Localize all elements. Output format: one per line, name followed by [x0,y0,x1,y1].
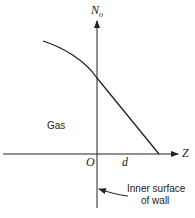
gas-region-label: Gas [47,120,65,131]
annotation-line-2: of wall [141,195,169,206]
y-axis-label-main: N [91,3,99,17]
origin-label: O [86,157,95,168]
concentration-curve [43,41,159,154]
wall-thickness-label: d [122,157,128,168]
y-axis-label: No [91,5,103,20]
annotation-leader-arrow [99,189,128,196]
diagram-canvas: No Z O d Gas Inner surface of wall [0,0,195,218]
annotation-line-1: Inner surface [127,183,185,194]
x-axis-label: Z [182,148,189,159]
y-axis-label-subscript: o [99,10,103,19]
